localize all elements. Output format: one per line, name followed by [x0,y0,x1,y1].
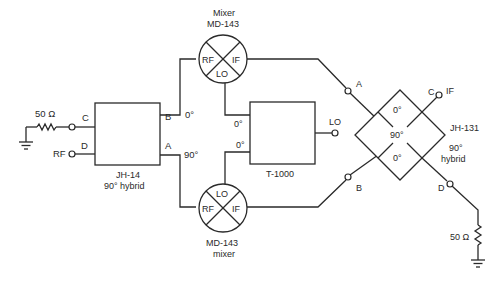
rf-input: RF D [53,140,95,159]
port-a-right: A [356,79,362,89]
port-c-right: C [428,87,435,97]
hybrid-jh14: JH-14 90° hybrid B A 0° 90° [95,103,199,191]
right-termination: 50 Ω [450,186,485,267]
wire-a-to-mixer-bottom [160,155,196,207]
wire-lo-bottom [225,152,250,184]
splitter-t1000: 0° 0° T-1000 LO [234,102,341,179]
mixer-bottom-title-1: MD-143 [206,238,238,248]
mixer-top-if: IF [232,55,241,65]
jh131-name: JH-131 [450,123,479,133]
jh131-inner-bottom: 0° [393,153,402,163]
mixer-top-lo: LO [216,69,228,79]
phase-a-left: 90° [184,149,199,160]
hybrid-jh131: 0° 90° 0° JH-131 90° hybrid [355,90,479,180]
splitter-phase-bottom: 0° [236,140,245,150]
port-a-left: A [165,140,172,151]
port-b-right: B [356,183,362,193]
mixer-bottom: LO RF IF MD-143 mixer [199,184,247,259]
hybrid-jh14-name: JH-14 [116,170,140,180]
lo-label: LO [329,117,341,127]
wire-if-bottom [247,180,346,207]
rf-input-label: RF [53,148,66,159]
jh131-inner-center: 90° [390,130,404,140]
phase-b-left: 0° [185,109,194,120]
mixer-bottom-if: IF [232,204,241,214]
hybrid-jh14-subtitle: 90° hybrid [104,181,145,191]
port-d-right: D [438,183,445,193]
port-d-left: D [81,140,88,151]
splitter-name: T-1000 [266,169,294,179]
splitter-phase-top: 0° [234,119,243,129]
mixer-top: Mixer MD-143 RF IF LO [199,8,247,83]
terminal-c-left [69,124,75,130]
jh131-subtitle-1: 90° [449,143,463,153]
mixer-schematic: 50 Ω C RF D JH-14 90° hybrid B A 0° 90° … [0,0,500,282]
wire-if-out [422,97,437,112]
termination-label-left: 50 Ω [35,108,55,119]
if-terminal [436,92,442,98]
wire-if-top [247,59,346,88]
jh131-inner-top: 0° [393,105,402,115]
if-output-label: IF [446,86,455,96]
wire-b-to-mixer-top [160,59,196,115]
wire-lo-top [225,83,250,115]
mixer-bottom-lo: LO [216,189,228,199]
mixer-top-title-2: MD-143 [207,19,239,29]
mixer-top-title-1: Mixer [213,8,235,18]
lo-terminal [332,130,338,136]
port-b-left: B [165,111,171,122]
mixer-top-rf: RF [202,55,214,65]
mixer-bottom-title-2: mixer [213,249,235,259]
rf-terminal [69,151,75,157]
termination-label-right: 50 Ω [450,232,470,242]
jh131-subtitle-2: hybrid [441,154,466,164]
mixer-bottom-rf: RF [202,204,214,214]
port-c-left: C [82,112,89,123]
